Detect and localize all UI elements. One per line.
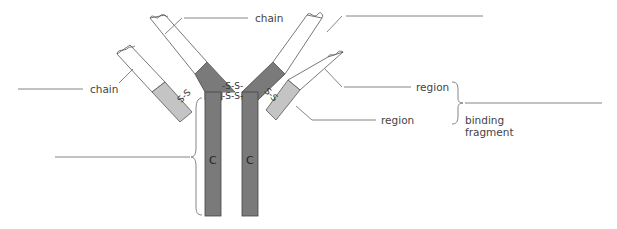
disulfide-bottom: -S-S- — [222, 91, 243, 101]
stem-c-right: C — [246, 154, 254, 167]
label-light-chain: chain — [90, 83, 118, 95]
left-heavy-chain — [150, 15, 235, 216]
label-fab-line2: fragment — [465, 126, 514, 138]
label-heavy-chain: chain — [255, 12, 283, 24]
right-heavy-chain — [242, 13, 323, 216]
disulfide-top: -S-S- — [222, 81, 243, 91]
fab-brace — [452, 82, 463, 124]
antibody-diagram: -S-S- -S-S- S-S S-S C C — [0, 0, 617, 229]
fc-brace — [191, 98, 202, 215]
stem-c-left: C — [209, 154, 217, 167]
label-constant-region: region — [381, 114, 414, 126]
label-variable-region: region — [416, 81, 449, 93]
label-fab-line1: binding — [465, 114, 504, 126]
